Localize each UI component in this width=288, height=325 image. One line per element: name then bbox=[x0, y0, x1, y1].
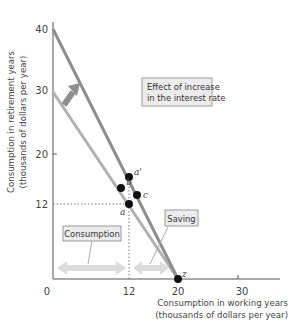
y-axis-title-line2: (thousands of dollars per year) bbox=[18, 56, 28, 189]
shift-arrow-icon bbox=[64, 83, 80, 105]
point-z-label: z bbox=[181, 269, 187, 279]
y-axis-title-line1: Consumption in retirement years bbox=[6, 50, 16, 193]
point-a-label: a bbox=[120, 207, 125, 217]
x-tick-0: 0 bbox=[44, 286, 50, 297]
point-b-label: b bbox=[126, 177, 132, 187]
intertemporal-budget-chart: 40 30 20 12 0 12 20 30 Consumption in wo… bbox=[0, 0, 288, 325]
svg-text:in the interest rate: in the interest rate bbox=[147, 93, 226, 103]
y-tick-30: 30 bbox=[35, 85, 48, 96]
y-tick-20: 20 bbox=[35, 149, 48, 160]
svg-text:Effect of increase: Effect of increase bbox=[147, 82, 220, 92]
y-tick-40: 40 bbox=[35, 24, 48, 35]
point-z bbox=[174, 275, 182, 283]
svg-text:Consumption: Consumption bbox=[64, 229, 119, 239]
point-a bbox=[125, 200, 133, 208]
consumption-range-arrow bbox=[57, 261, 126, 275]
saving-range-arrow bbox=[133, 261, 169, 275]
x-axis-title-line2: (thousands of dollars per year) bbox=[155, 310, 288, 320]
x-axis-title-line1: Consumption in working years bbox=[157, 298, 288, 308]
consumption-leader-line bbox=[88, 240, 92, 264]
x-tick-20: 20 bbox=[172, 286, 185, 297]
x-tick-12: 12 bbox=[123, 286, 136, 297]
point-a-prime-label: a' bbox=[134, 167, 142, 177]
point-b bbox=[117, 184, 125, 192]
effect-annotation: Effect of increase in the interest rate bbox=[142, 78, 226, 106]
point-c-label: c bbox=[143, 190, 148, 200]
saving-label: Saving bbox=[165, 210, 198, 226]
y-tick-12: 12 bbox=[35, 199, 48, 210]
x-tick-30: 30 bbox=[236, 286, 249, 297]
original-budget-line bbox=[53, 92, 178, 279]
point-c bbox=[133, 191, 141, 199]
svg-text:Saving: Saving bbox=[167, 214, 195, 224]
consumption-label: Consumption bbox=[63, 226, 121, 241]
